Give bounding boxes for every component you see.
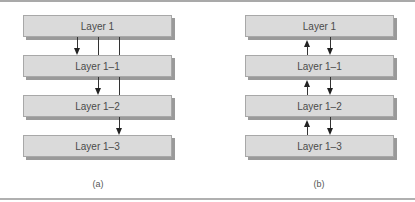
layer-box-a-4: Layer 1–3 [23,135,172,157]
arrow-line [119,37,120,55]
layer-box-b-4: Layer 1–3 [245,135,394,157]
arrow-line [307,46,308,55]
layer-label: Layer 1–2 [75,101,119,112]
arrow-line [307,86,308,95]
layer-box-a-3: Layer 1–2 [23,95,172,117]
arrow-line [307,126,308,135]
arrow-line [330,77,331,88]
caption-a: (a) [78,179,118,189]
layer-label: Layer 1–3 [297,141,341,152]
arrow-line [98,37,99,55]
layer-label: Layer 1–2 [297,101,341,112]
arrow-line [119,77,120,95]
layer-label: Layer 1 [303,21,336,32]
arrow-line [330,37,331,48]
arrow-line [330,117,331,128]
caption-b: (b) [299,179,339,189]
arrow-down-icon [116,128,122,135]
arrow-down-icon [327,88,333,95]
arrow-down-icon [74,48,80,55]
bottom-rule [0,198,415,200]
layer-box-b-3: Layer 1–2 [245,95,394,117]
layer-box-a-1: Layer 1 [23,15,172,37]
layer-box-a-2: Layer 1–1 [23,55,172,77]
layer-label: Layer 1–3 [75,141,119,152]
layer-label: Layer 1 [81,21,114,32]
arrow-down-icon [327,128,333,135]
top-rule [0,0,415,2]
layer-box-b-2: Layer 1–1 [245,55,394,77]
layer-label: Layer 1–1 [75,61,119,72]
arrow-down-icon [327,48,333,55]
layer-label: Layer 1–1 [297,61,341,72]
arrow-down-icon [95,88,101,95]
layer-box-b-1: Layer 1 [245,15,394,37]
